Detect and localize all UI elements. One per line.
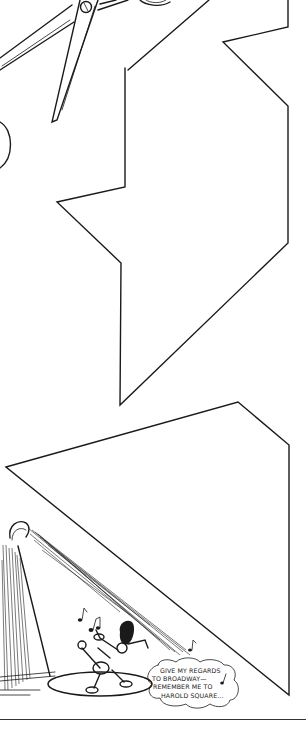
speech-bubble: GIVE MY REGARDS TO BROADWAY— REMEMBER ME… bbox=[148, 658, 239, 708]
cartoon-illustration: GIVE MY REGARDS TO BROADWAY— REMEMBER ME… bbox=[0, 0, 306, 734]
scissors-icon bbox=[0, 0, 170, 122]
singing-character bbox=[78, 621, 148, 693]
speech-bubble-line-2: TO BROADWAY— bbox=[151, 675, 207, 682]
circle-arc bbox=[0, 122, 11, 168]
zigzag-polygon-shape bbox=[57, 0, 288, 405]
speech-bubble-line-1: GIVE MY REGARDS bbox=[160, 667, 221, 674]
triangle-shape bbox=[6, 402, 289, 695]
divider-line bbox=[0, 719, 306, 720]
speech-bubble-line-3: REMEMBER ME TO bbox=[153, 683, 213, 690]
speech-bubble-line-4: HAROLD SQUARE... bbox=[161, 692, 224, 699]
music-note-icon bbox=[89, 617, 101, 632]
music-note-icon bbox=[188, 640, 196, 652]
music-note-icon bbox=[78, 608, 87, 622]
music-note-icon bbox=[220, 674, 226, 685]
